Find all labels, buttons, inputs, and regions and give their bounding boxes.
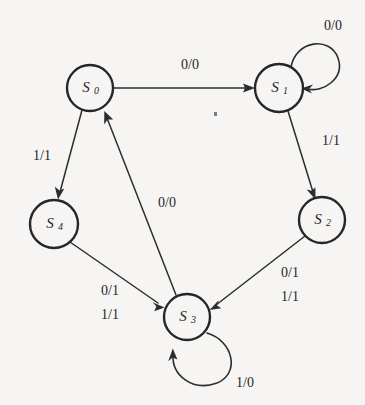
state-circle-s4[interactable] — [30, 200, 78, 248]
state-label-s3: S — [179, 308, 187, 324]
edge-label-s1-s2: 1/1 — [322, 133, 340, 148]
edge-line-s3-self — [173, 333, 231, 385]
transition-s1-to-s2: 1/1 — [288, 111, 340, 200]
state-subscript-s0: 0 — [94, 85, 99, 96]
transition-s3-self-loop: 1/0 — [168, 333, 254, 390]
edge-line-s0-s4 — [60, 110, 82, 192]
edge-label-s4-s3-line2: 1/1 — [101, 307, 119, 322]
state-circle-s3[interactable] — [164, 294, 210, 340]
edge-label-s2-s3-line1: 0/1 — [281, 265, 299, 280]
state-subscript-s1: 1 — [283, 85, 288, 96]
fsm-diagram-canvas: 0/0 0/0 1/1 0/1 1/1 1/0 — [0, 0, 365, 405]
state-label-s4: S — [46, 215, 54, 231]
state-subscript-s4: 4 — [58, 221, 63, 232]
edge-label-s2-s3-line2: 1/1 — [281, 289, 299, 304]
state-label-s0: S — [82, 79, 90, 95]
transition-s0-to-s4: 1/1 — [33, 110, 82, 200]
edge-label-s4-s3-line1: 0/1 — [101, 283, 119, 298]
arrowhead-s0-s4 — [55, 187, 65, 200]
transition-s0-to-s1: 0/0 — [113, 57, 255, 92]
state-label-s2: S — [314, 211, 322, 227]
state-subscript-s3: 3 — [190, 314, 196, 325]
arrowhead-s4-s3 — [153, 302, 165, 311]
edge-line-s1-s2 — [288, 111, 313, 192]
state-node-s3[interactable]: S 3 — [164, 294, 210, 340]
transition-s3-to-s0: 0/0 — [104, 111, 176, 295]
state-node-s4[interactable]: S 4 — [30, 200, 78, 248]
state-circle-s2[interactable] — [299, 197, 345, 243]
transition-s2-to-s3: 0/1 1/1 — [210, 236, 306, 310]
state-label-s1: S — [271, 79, 279, 95]
state-node-s0[interactable]: S 0 — [67, 65, 113, 111]
state-circle-s0[interactable] — [67, 65, 113, 111]
edge-label-s3-s0: 0/0 — [158, 195, 176, 210]
state-circle-s1[interactable] — [255, 64, 303, 112]
state-subscript-s2: 2 — [326, 217, 331, 228]
edge-label-s3-self: 1/0 — [236, 375, 254, 390]
edge-label-s0-s4: 1/1 — [33, 148, 51, 163]
state-node-s2[interactable]: S 2 — [299, 197, 345, 243]
state-node-s1[interactable]: S 1 — [255, 64, 303, 112]
transition-s4-to-s3: 0/1 1/1 — [70, 242, 165, 322]
state-machine-figure: 0/0 0/0 1/1 0/1 1/1 1/0 — [0, 0, 365, 405]
edge-label-s1-self: 0/0 — [324, 18, 342, 33]
scan-artifact-speck — [214, 112, 217, 116]
edge-label-s0-s1: 0/0 — [181, 57, 199, 72]
